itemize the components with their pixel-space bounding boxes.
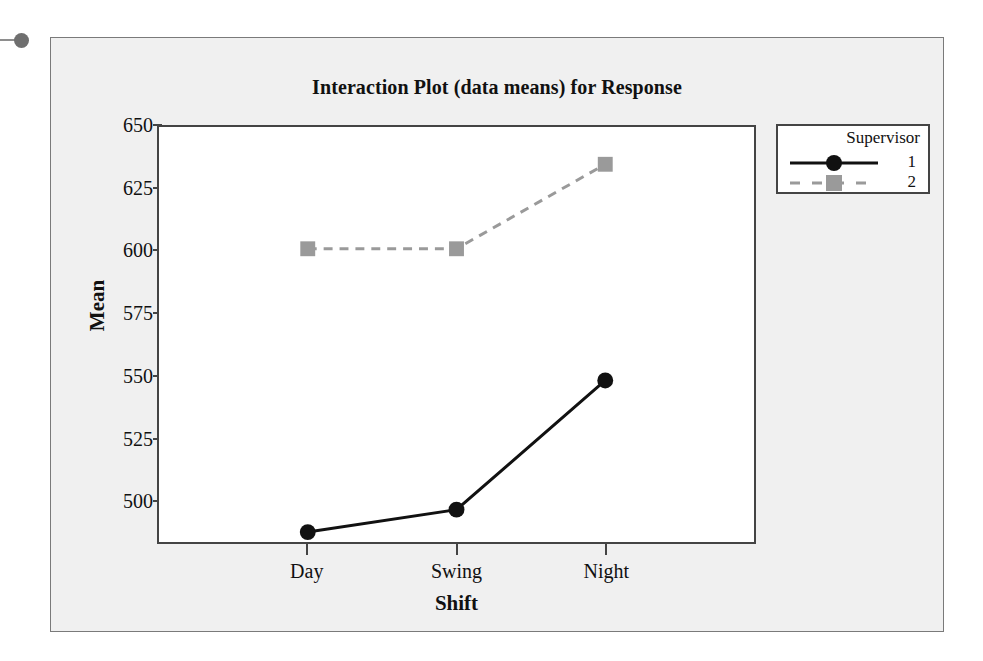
series-line-2 — [308, 164, 606, 248]
legend-title: Supervisor — [846, 128, 920, 148]
legend-marker — [826, 175, 842, 191]
x-tick-label: Day — [290, 560, 323, 583]
legend-marker — [826, 155, 842, 171]
data-point-marker — [300, 241, 315, 256]
chart-title: Interaction Plot (data means) for Respon… — [51, 76, 943, 99]
legend-entry-1: 1 — [778, 152, 928, 174]
stray-dot-artifact — [14, 33, 29, 48]
screenshot-root: Interaction Plot (data means) for Respon… — [0, 0, 983, 661]
legend: Supervisor 1 2 — [776, 124, 930, 194]
legend-label-series-1: 1 — [908, 152, 917, 172]
chart-figure-panel: Interaction Plot (data means) for Respon… — [50, 37, 944, 632]
x-tick-mark — [306, 544, 308, 555]
x-tick-label: Swing — [431, 560, 482, 583]
data-point-marker — [449, 502, 465, 518]
data-point-marker — [597, 373, 613, 389]
data-point-marker — [598, 157, 613, 172]
plot-area — [157, 125, 756, 544]
x-axis-title: Shift — [157, 591, 756, 616]
legend-label-series-2: 2 — [908, 172, 917, 192]
plot-series-svg — [159, 127, 754, 542]
data-point-marker — [449, 241, 464, 256]
data-point-marker — [300, 524, 316, 540]
legend-entry-2: 2 — [778, 172, 928, 194]
x-tick-label: Night — [583, 560, 629, 583]
legend-key-series-1 — [788, 152, 880, 174]
y-tick-marks — [51, 125, 171, 544]
x-tick-mark — [605, 544, 607, 555]
legend-key-series-2 — [788, 172, 880, 194]
x-tick-mark — [456, 544, 458, 555]
